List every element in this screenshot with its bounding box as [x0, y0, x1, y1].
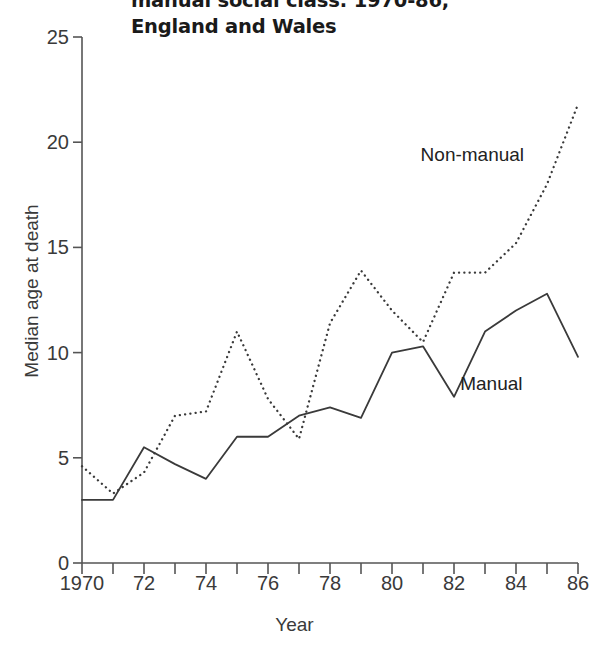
series-label-non-manual: Non-manual — [421, 144, 525, 166]
y-tick-label: 5 — [13, 448, 69, 468]
x-tick-label: 82 — [443, 572, 465, 594]
x-tick-label: 72 — [133, 572, 155, 594]
y-tick-label: 15 — [13, 237, 69, 257]
x-tick-label: 84 — [505, 572, 527, 594]
y-tick-label: 10 — [13, 343, 69, 363]
x-tick-label: 78 — [319, 572, 341, 594]
x-tick-label: 1970 — [60, 572, 105, 594]
y-tick-label: 0 — [13, 553, 69, 573]
series-label-manual: Manual — [460, 373, 522, 395]
x-tick-label: 74 — [195, 572, 217, 594]
chart-figure: manual social class: 1970-86, England an… — [0, 0, 589, 647]
plot-area — [0, 0, 589, 647]
axis-lines — [82, 37, 578, 563]
y-tick-label: 25 — [13, 27, 69, 47]
y-tick-label: 20 — [13, 132, 69, 152]
x-tick-label: 86 — [567, 572, 589, 594]
x-tick-label: 80 — [381, 572, 403, 594]
y-axis-ticks — [73, 37, 82, 563]
x-tick-label: 76 — [257, 572, 279, 594]
